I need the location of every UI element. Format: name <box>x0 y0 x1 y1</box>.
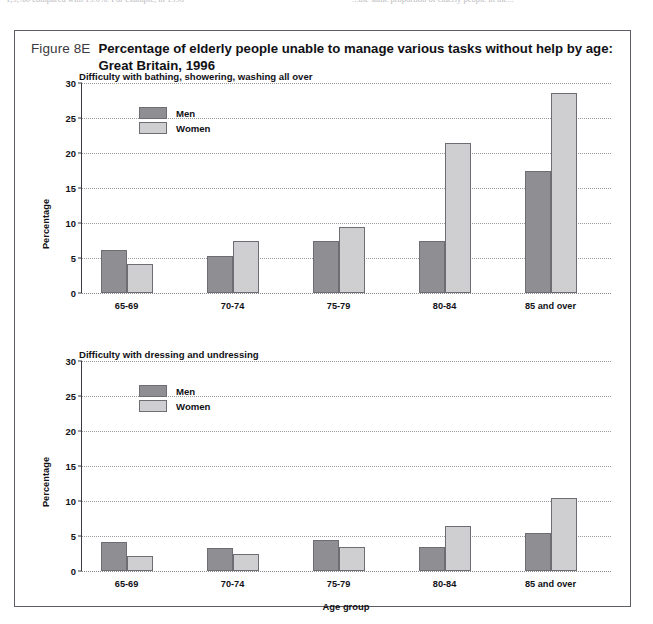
y-axis-tick-label: 5 <box>71 253 76 264</box>
legend-item-women: Women <box>139 122 210 134</box>
y-axis-tick-mark <box>78 361 82 362</box>
bar-men-75-79 <box>313 241 339 293</box>
legend-item-men: Men <box>139 385 210 397</box>
y-axis-title-top: Percentage <box>41 174 51 274</box>
legend-label-women: Women <box>176 123 210 134</box>
legend-swatch-men-icon <box>139 107 167 119</box>
bar-men-85-and-over <box>525 171 551 294</box>
x-axis-tick-label: 75-79 <box>327 579 351 589</box>
y-axis-tick-label: 10 <box>66 496 76 507</box>
bar-women-65-69 <box>127 264 153 293</box>
y-axis-tick-mark <box>78 118 82 119</box>
bar-women-70-74 <box>233 554 259 571</box>
bar-men-65-69 <box>101 250 127 293</box>
bar-men-85-and-over <box>525 533 551 572</box>
x-axis-tick-label: 80-84 <box>433 301 457 311</box>
bar-men-70-74 <box>207 548 233 571</box>
bar-men-65-69 <box>101 542 127 571</box>
gridline <box>82 153 611 154</box>
y-axis-tick-label: 0 <box>71 566 76 577</box>
chart-panel-dressing: Difficulty with dressing and undressing … <box>15 349 630 607</box>
gridline <box>82 293 611 294</box>
x-axis-tick-label: 70-74 <box>221 579 245 589</box>
y-axis-tick-mark <box>78 223 82 224</box>
y-axis-tick-label: 25 <box>66 113 76 124</box>
bar-men-75-79 <box>313 540 339 571</box>
bar-women-65-69 <box>127 556 153 571</box>
y-axis-tick-label: 15 <box>66 183 76 194</box>
legend-item-men: Men <box>139 107 210 119</box>
bar-women-80-84 <box>445 143 471 294</box>
y-axis-tick-label: 30 <box>66 78 76 89</box>
bar-men-80-84 <box>419 547 445 571</box>
y-axis-tick-label: 20 <box>66 426 76 437</box>
legend-swatch-men-icon <box>139 385 167 397</box>
figure-number: Figure 8E <box>31 41 90 56</box>
x-axis-tick-label: 75-79 <box>327 301 351 311</box>
chart-panel-bathing: Difficulty with bathing, showering, wash… <box>15 71 630 351</box>
y-axis-title-bottom: Percentage <box>41 432 51 532</box>
legend-label-men: Men <box>176 108 195 119</box>
gridline <box>82 571 611 572</box>
legend-swatch-women-icon <box>139 122 167 134</box>
y-axis-tick-mark <box>78 501 82 502</box>
y-axis-tick-mark <box>78 571 82 572</box>
figure-title: Percentage of elderly people unable to m… <box>98 41 617 74</box>
y-axis-tick-label: 25 <box>66 391 76 402</box>
y-axis-tick-label: 10 <box>66 218 76 229</box>
y-axis-tick-mark <box>78 431 82 432</box>
gridline <box>82 361 611 362</box>
bar-men-70-74 <box>207 256 233 293</box>
legend-swatch-women-icon <box>139 400 167 412</box>
legend-label-men: Men <box>176 386 195 397</box>
bar-men-80-84 <box>419 241 445 294</box>
page-body-text-strip: 1,9,%0 compared with 19.0%. For example,… <box>0 0 653 20</box>
y-axis-tick-mark <box>78 466 82 467</box>
legend-dressing: Men Women <box>139 385 210 415</box>
gridline <box>82 501 611 502</box>
y-axis-tick-mark <box>78 293 82 294</box>
bar-women-85-and-over <box>551 498 577 572</box>
body-text-left-column: 1,9,%0 compared with 19.0%. For example,… <box>6 0 184 4</box>
figure-frame: Figure 8E Percentage of elderly people u… <box>14 30 631 607</box>
y-axis-tick-mark <box>78 536 82 537</box>
x-axis-tick-label: 85 and over <box>525 301 576 311</box>
y-axis-tick-mark <box>78 153 82 154</box>
y-axis-tick-label: 0 <box>71 288 76 299</box>
gridline <box>82 431 611 432</box>
bar-women-80-84 <box>445 526 471 571</box>
bar-women-75-79 <box>339 227 365 293</box>
x-axis-tick-label: 85 and over <box>525 579 576 589</box>
bar-women-70-74 <box>233 241 259 293</box>
legend-bathing: Men Women <box>139 107 210 137</box>
y-axis-tick-label: 5 <box>71 531 76 542</box>
bar-women-85-and-over <box>551 93 577 293</box>
x-axis-tick-label: 65-69 <box>115 301 139 311</box>
chart-subtitle-bathing: Difficulty with bathing, showering, wash… <box>79 71 312 82</box>
x-axis-tick-label: 65-69 <box>115 579 139 589</box>
bar-women-75-79 <box>339 547 365 571</box>
legend-item-women: Women <box>139 400 210 412</box>
x-axis-tick-label: 70-74 <box>221 301 245 311</box>
chart-subtitle-dressing: Difficulty with dressing and undressing <box>79 349 259 360</box>
y-axis-tick-mark <box>78 396 82 397</box>
y-axis-tick-label: 20 <box>66 148 76 159</box>
y-axis-tick-mark <box>78 258 82 259</box>
y-axis-tick-label: 15 <box>66 461 76 472</box>
y-axis-tick-mark <box>78 83 82 84</box>
gridline <box>82 83 611 84</box>
legend-label-women: Women <box>176 401 210 412</box>
x-axis-tick-label: 80-84 <box>433 579 457 589</box>
body-text-right-column: ...the same proportion of elderly people… <box>352 0 514 4</box>
gridline <box>82 466 611 467</box>
y-axis-tick-mark <box>78 188 82 189</box>
y-axis-tick-label: 30 <box>66 356 76 367</box>
figure-header: Figure 8E Percentage of elderly people u… <box>31 41 617 74</box>
x-axis-title: Age group <box>81 601 611 612</box>
